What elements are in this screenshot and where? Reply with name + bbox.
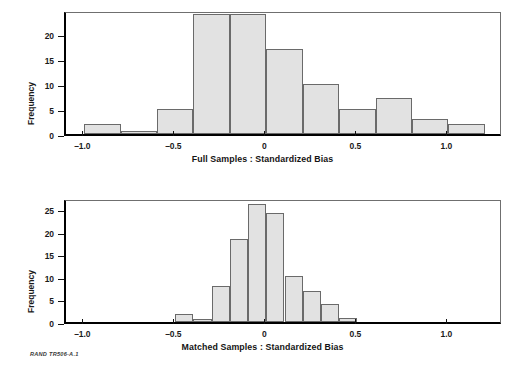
- x-axis-tick: [355, 319, 356, 324]
- x-axis-tick-label: 1.0: [426, 329, 466, 339]
- y-axis-tick: [58, 86, 64, 87]
- histogram-bar: [121, 131, 157, 135]
- x-axis-tick-label: 0.5: [335, 141, 375, 151]
- histogram-bar: [212, 286, 230, 322]
- histogram-bar: [266, 49, 302, 134]
- x-axis-tick-label: –1.0: [62, 329, 102, 339]
- y-axis-tick-label: 0: [30, 319, 54, 329]
- bars-layer-full-samples: [66, 13, 500, 134]
- y-axis-tick-label: 15: [30, 251, 54, 261]
- panel-matched-samples: 0510152025 –1.0–0.500.51.0 Frequency Mat…: [0, 185, 525, 377]
- figure-standardized-bias-histograms: 05101520 –1.0–0.500.51.0 Frequency Full …: [0, 0, 525, 377]
- histogram-bar: [157, 109, 193, 134]
- x-axis-tick-label: –0.5: [153, 329, 193, 339]
- y-axis-tick-label: 20: [30, 31, 54, 41]
- y-axis-title-matched-samples: Frequency: [26, 270, 36, 313]
- figure-credit: RAND TR506-A.1: [30, 351, 79, 357]
- y-axis-tick: [58, 61, 64, 62]
- histogram-bar: [230, 239, 248, 322]
- histogram-bar: [285, 276, 303, 322]
- histogram-bar: [266, 213, 284, 322]
- histogram-bar: [303, 84, 339, 134]
- y-axis-tick-label: 20: [30, 229, 54, 239]
- x-axis-tick: [355, 131, 356, 136]
- histogram-bar: [248, 204, 266, 322]
- x-axis-tick: [446, 319, 447, 324]
- histogram-bar: [376, 98, 412, 134]
- histogram-bar: [321, 304, 339, 322]
- x-axis-tick-label: 0: [244, 329, 284, 339]
- x-axis-tick: [264, 131, 265, 136]
- y-axis-tick: [58, 111, 64, 112]
- histogram-bar: [84, 124, 120, 134]
- x-axis-tick: [264, 319, 265, 324]
- histogram-bar: [175, 314, 193, 322]
- panel-full-samples: 05101520 –1.0–0.500.51.0 Frequency Full …: [0, 0, 525, 185]
- histogram-bar: [339, 109, 375, 134]
- bars-layer-matched-samples: [66, 201, 500, 322]
- y-axis-tick: [58, 256, 64, 257]
- y-axis-tick: [58, 301, 64, 302]
- histogram-bar: [412, 119, 448, 134]
- plot-area-matched-samples: [64, 200, 501, 324]
- histogram-bar: [193, 319, 211, 322]
- y-axis-tick: [58, 36, 64, 37]
- histogram-bar: [193, 14, 229, 134]
- x-axis-tick: [446, 131, 447, 136]
- y-axis-tick: [58, 211, 64, 212]
- x-axis-title-full-samples: Full Samples : Standardized Bias: [0, 154, 525, 164]
- y-axis-tick: [58, 136, 64, 137]
- y-axis-tick: [58, 234, 64, 235]
- x-axis-tick-label: –0.5: [153, 141, 193, 151]
- histogram-bar: [230, 14, 266, 134]
- y-axis-tick: [58, 324, 64, 325]
- y-axis-tick: [58, 279, 64, 280]
- x-axis-tick: [82, 131, 83, 136]
- x-axis-tick-label: 0.5: [335, 329, 375, 339]
- x-axis-tick-label: –1.0: [62, 141, 102, 151]
- y-axis-tick-label: 0: [30, 131, 54, 141]
- plot-area-full-samples: [64, 12, 501, 136]
- x-axis-tick: [82, 319, 83, 324]
- x-axis-tick: [173, 319, 174, 324]
- histogram-bar: [448, 124, 484, 134]
- y-axis-title-full-samples: Frequency: [26, 82, 36, 125]
- x-axis-tick: [173, 131, 174, 136]
- y-axis-tick-label: 25: [30, 206, 54, 216]
- x-axis-tick-label: 0: [244, 141, 284, 151]
- y-axis-tick-label: 15: [30, 56, 54, 66]
- histogram-bar: [303, 291, 321, 322]
- x-axis-tick-label: 1.0: [426, 141, 466, 151]
- x-axis-title-matched-samples: Matched Samples : Standardized Bias: [0, 342, 525, 352]
